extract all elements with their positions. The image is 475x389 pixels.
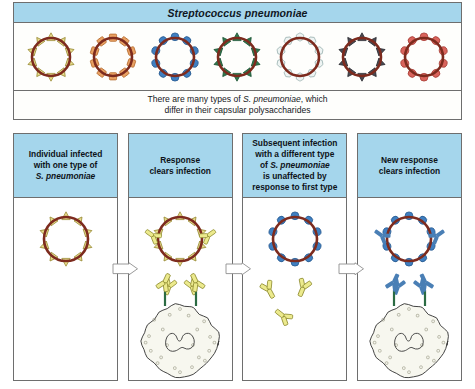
bacterium-serotype-white-hexagon [273, 30, 327, 84]
head-line: response to first type [252, 182, 337, 192]
panel-response-clears-infection-header: Responseclears infection [129, 134, 232, 198]
bacterium-serotype-green-triangle [210, 30, 264, 84]
caption-line-2: differ in their capsular polysaccharides [164, 105, 310, 115]
panel-response-clears-infection: Responseclears infection [128, 133, 233, 381]
head-line: New response [381, 155, 438, 165]
head-line: with a different type [255, 149, 334, 159]
panel-response-clears-infection-header-text: Responseclears infection [149, 155, 210, 177]
panel-new-response-clears-infection: New responseclears infection [357, 133, 462, 381]
head-line: of [260, 160, 270, 170]
caption-text-pre: There are many types of [147, 94, 243, 104]
head-species-italic: S. pneumoniae [270, 160, 330, 170]
panel-individual-infected-header: Individual infectedwith one type ofS. pn… [14, 134, 117, 198]
bacterium-panel-1 [35, 208, 97, 270]
panel-subsequent-infection-unaffected-illustration [243, 198, 346, 380]
species-header-bar: Streptococcus pneumoniae [14, 3, 461, 23]
bacteria-serotype-row [14, 23, 461, 91]
head-line: clears infection [379, 166, 440, 176]
bacterium-serotype-red-circle [397, 30, 451, 84]
caption-species-italic: S. pneumoniae [243, 94, 301, 104]
head-species-italic: S. pneumoniae [36, 171, 96, 181]
head-line: clears infection [149, 166, 210, 176]
bridging-antibodies-panel-4 [358, 198, 461, 380]
streptococcus-overview-box: Streptococcus pneumoniae There are many … [13, 2, 462, 120]
panel-new-response-clears-infection-illustration [358, 198, 461, 380]
head-line: Individual infected [29, 149, 103, 159]
species-title: Streptococcus pneumoniae [167, 7, 307, 19]
head-line: is unaffected by [263, 171, 327, 181]
panel-subsequent-infection-unaffected-header: Subsequent infectionwith a different typ… [243, 134, 346, 198]
panel-individual-infected: Individual infectedwith one type ofS. pn… [13, 133, 118, 381]
head-line: Response [160, 155, 200, 165]
panel-new-response-clears-infection-header: New responseclears infection [358, 134, 461, 198]
panel-individual-infected-header-text: Individual infectedwith one type ofS. pn… [29, 149, 103, 182]
panel-subsequent-infection-unaffected-header-text: Subsequent infectionwith a different typ… [252, 138, 337, 193]
bacterium-serotype-dark-triangle [335, 30, 389, 84]
arrow-panel2-to-panel3 [231, 256, 245, 282]
head-line: with one type of [34, 160, 98, 170]
free-antibodies-panel-3 [243, 276, 346, 336]
overview-caption: There are many types of S. pneumoniae, w… [14, 91, 461, 119]
arrow-panel1-to-panel2 [118, 256, 132, 282]
arrow-panel3-to-panel4 [344, 256, 358, 282]
panel-response-clears-infection-illustration [129, 198, 232, 380]
bacterium-serotype-orange-square [86, 30, 140, 84]
panel-individual-infected-illustration [14, 198, 117, 380]
caption-text-post: , which [301, 94, 328, 104]
bacterium-serotype-yellow-triangle [24, 30, 78, 84]
bacterium-serotype-blue-circle [148, 30, 202, 84]
panel-subsequent-infection-unaffected: Subsequent infectionwith a different typ… [242, 133, 347, 381]
bridging-antibodies-panel-2 [129, 198, 232, 380]
head-line: Subsequent infection [252, 138, 337, 148]
bacterium-panel-3 [264, 208, 326, 270]
panel-new-response-clears-infection-header-text: New responseclears infection [379, 155, 440, 177]
